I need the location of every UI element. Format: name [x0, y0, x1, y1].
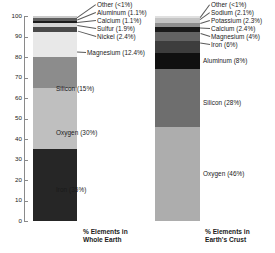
earths-crust-label: Calcium (2.4%) [211, 25, 255, 32]
leader-line [77, 25, 96, 29]
y-axis-tick-label: 40 [4, 136, 22, 142]
y-axis-tick-label: 30 [4, 156, 22, 162]
leader-line [77, 20, 96, 23]
whole-earth-label: Silicon (15%) [56, 85, 94, 92]
y-axis-tick-label: 20 [4, 177, 22, 183]
earths-crust-segment-other [155, 16, 200, 18]
earths-crust-segment-aluminum [155, 53, 200, 69]
earths-crust-label: Magnesium (4%) [211, 33, 260, 40]
y-axis-tick [24, 16, 28, 17]
bar-earths-crust [155, 16, 200, 221]
whole-earth-segment-aluminum [33, 18, 77, 20]
y-axis-tick [24, 57, 28, 58]
leader-line [200, 42, 210, 44]
y-axis-tick-label: 100 [4, 13, 22, 19]
whole-earth-label: Nickel (2.4%) [97, 33, 136, 40]
y-axis-tick [24, 221, 28, 222]
y-axis-tick-label: 10 [4, 197, 22, 203]
whole-earth-segment-sulfur [33, 23, 77, 27]
y-axis-tick-label: 50 [4, 115, 22, 121]
earths-crust-label: Aluminum (8%) [203, 57, 247, 64]
earths-crust-label: Oxygen (46%) [203, 170, 244, 177]
earths-crust-segment-magnesium [155, 32, 200, 40]
whole-earth-segment-nickel [33, 27, 77, 32]
y-axis-tick [24, 98, 28, 99]
earths-crust-label: Sodium (2.1%) [211, 9, 254, 16]
y-axis-tick [24, 139, 28, 140]
leader-line [77, 30, 96, 36]
y-axis-tick-label: 70 [4, 74, 22, 80]
leader-line [77, 51, 86, 52]
chart-root: 0102030405060708090100 Other (<1%)Alumin… [0, 0, 275, 253]
earths-crust-segment-oxygen [155, 127, 200, 221]
y-axis-tick [24, 201, 28, 202]
y-axis-tick-label: 80 [4, 54, 22, 60]
leader-line [200, 27, 210, 28]
y-axis-tick [24, 37, 28, 38]
whole-earth-segment-calcium [33, 21, 77, 23]
whole-earth-segment-magnesium [33, 32, 77, 57]
earths-crust-label: Other (<1%) [211, 1, 247, 8]
y-axis-tick [24, 78, 28, 79]
caption-earths-crust-line1: % Elements in [205, 228, 250, 236]
earths-crust-label: Potassium (2.3%) [211, 17, 262, 24]
earths-crust-segment-silicon [155, 69, 200, 126]
earths-crust-label: Iron (6%) [211, 41, 238, 48]
leader-line [200, 20, 210, 24]
whole-earth-label: Oxygen (30%) [56, 129, 97, 136]
caption-whole-earth-line1: % Elements in [83, 228, 128, 236]
whole-earth-segment-oxygen [33, 88, 77, 150]
y-axis-tick-label: 60 [4, 95, 22, 101]
whole-earth-label: Calcium (1.1%) [97, 17, 141, 24]
y-axis-tick-label: 0 [4, 218, 22, 224]
caption-whole-earth: % Elements in Whole Earth [83, 228, 128, 245]
earths-crust-label: Silicon (28%) [203, 99, 241, 106]
whole-earth-label: Sulfur (1.9%) [97, 25, 135, 32]
whole-earth-label: Magnesium (12.4%) [87, 49, 145, 56]
whole-earth-segment-other [33, 16, 77, 18]
earths-crust-segment-calcium [155, 27, 200, 32]
earths-crust-segment-sodium [155, 18, 200, 22]
earths-crust-segment-potassium [155, 23, 200, 28]
whole-earth-label: Other (<1%) [97, 1, 133, 8]
y-axis-tick-label: 90 [4, 33, 22, 39]
whole-earth-label: Aluminum (1.1%) [97, 9, 147, 16]
whole-earth-label: Iron (35%) [56, 186, 86, 193]
y-axis-tick [24, 119, 28, 120]
caption-earths-crust-line2: Earth's Crust [205, 236, 250, 244]
y-axis-tick [24, 180, 28, 181]
y-axis-tick [24, 160, 28, 161]
earths-crust-segment-iron [155, 41, 200, 53]
caption-earths-crust: % Elements in Earth's Crust [205, 228, 250, 245]
whole-earth-segment-silicon [33, 57, 77, 88]
caption-whole-earth-line2: Whole Earth [83, 236, 128, 244]
leader-line [200, 33, 210, 37]
